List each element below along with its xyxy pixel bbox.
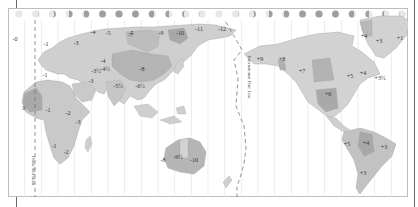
time-zone-label: -5½: [113, 83, 123, 89]
international-date-line: [226, 22, 246, 197]
moon-phase-icon: [199, 10, 206, 17]
moon-phase-icon: [232, 10, 239, 17]
moon-phase-icon: [365, 10, 372, 17]
time-zone-label: +5: [347, 73, 353, 79]
time-zone-label: -9: [159, 30, 164, 36]
time-zone-label: +4: [360, 70, 366, 76]
time-zone-label: -4: [91, 29, 96, 35]
moon-phase-row: [15, 10, 406, 17]
moon-phase-icon: [115, 10, 122, 17]
international-date-line-label: International Date Line: [247, 56, 252, 99]
land-masses: [22, 16, 408, 194]
time-zone-label: -0: [13, 36, 18, 42]
moon-phase-icon: [349, 10, 356, 17]
time-zone-label: +5: [344, 141, 350, 147]
time-zone-label: +3½: [375, 75, 386, 81]
time-zone-label: +4: [361, 33, 367, 39]
time-zone-label: -1: [46, 107, 51, 113]
moon-phase-icon: [99, 10, 106, 17]
world-time-zone-map: Prime Meridian International Date Line -…: [8, 8, 408, 197]
madagascar: [85, 136, 92, 152]
moon-phase-icon: [332, 10, 339, 17]
moon-phase-icon: [299, 10, 306, 17]
time-zone-label: 0: [23, 105, 26, 111]
central-america: [326, 116, 350, 132]
time-zone-label: -9½: [173, 154, 183, 160]
time-zone-label: -6½: [135, 83, 145, 89]
time-zone-label: +3: [360, 170, 366, 176]
time-zone-label: +3: [381, 144, 387, 150]
moon-phase-icon: [49, 10, 56, 17]
moon-phase-icon: [215, 10, 222, 17]
time-zone-label: +9: [257, 56, 263, 62]
time-zone-label: +8: [279, 56, 285, 62]
prime-meridian-label: Prime Meridian: [31, 156, 36, 186]
time-zone-label: -7: [128, 32, 133, 38]
time-zone-label: +4: [363, 140, 369, 146]
moon-phase-icon: [249, 10, 256, 17]
time-zone-label: -3: [89, 78, 94, 84]
bottom-tick-mark: [16, 197, 17, 207]
time-zone-label: -11: [195, 26, 203, 32]
time-zone-label: -1: [52, 143, 57, 149]
time-zone-label: -12: [218, 26, 226, 32]
time-zone-label: -2: [64, 149, 69, 155]
moon-phase-icon: [149, 10, 156, 17]
moon-phase-icon: [82, 10, 89, 17]
moon-phase-icon: [32, 10, 39, 17]
time-zone-label: -4½: [100, 66, 110, 72]
moon-phase-icon: [282, 10, 289, 17]
time-zone-label: -10: [190, 157, 198, 163]
time-zone-label: -3: [76, 119, 81, 125]
time-zone-label: +3: [376, 38, 382, 44]
time-zone-label: -1: [44, 41, 49, 47]
moon-phase-icon: [265, 10, 272, 17]
moon-phase-icon: [15, 10, 22, 17]
time-zone-label: -8: [140, 66, 145, 72]
moon-phase-icon: [315, 10, 322, 17]
southeast-asia-islands: [134, 104, 186, 124]
time-zone-label: -8: [161, 157, 166, 163]
time-zone-label: -2: [66, 110, 71, 116]
moon-phase-icon: [132, 10, 139, 17]
time-zone-label: +7: [299, 68, 305, 74]
time-zone-label: -10: [176, 30, 184, 36]
moon-phase-icon: [165, 10, 172, 17]
time-zone-label: -1: [43, 72, 48, 78]
moon-phase-icon: [182, 10, 189, 17]
time-zone-label: -4: [101, 58, 106, 64]
moon-phase-icon: [65, 10, 72, 17]
canada-central-region: [312, 58, 334, 82]
page-edge-line: [414, 0, 415, 207]
time-zone-label: -5: [106, 30, 111, 36]
time-zone-label: +6: [325, 91, 331, 97]
time-zone-label: -3: [74, 40, 79, 46]
time-zone-label: +1: [397, 35, 403, 41]
